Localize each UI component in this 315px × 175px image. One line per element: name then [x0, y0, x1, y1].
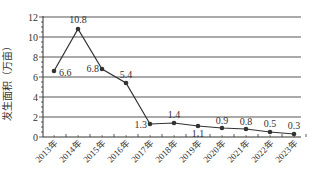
x-tick-label: 2017年: [129, 138, 156, 165]
y-tick-label: 8: [33, 52, 38, 63]
data-point: [244, 127, 249, 132]
x-tick-label: 2016年: [105, 138, 132, 165]
data-label: 0.3: [288, 120, 301, 131]
y-tick-label: 6: [33, 72, 38, 83]
data-label: 6.8: [87, 63, 100, 74]
data-label: 6.6: [59, 67, 72, 78]
data-point: [76, 27, 81, 32]
data-label: 1.4: [168, 109, 181, 120]
y-tick-label: 12: [28, 12, 38, 23]
x-tick-label: 2020年: [201, 138, 228, 165]
data-label: 10.8: [69, 14, 87, 25]
y-tick-label: 4: [33, 92, 38, 103]
data-label: 1.1: [192, 128, 205, 139]
data-point: [124, 81, 129, 86]
y-tick-label: 10: [28, 32, 38, 43]
x-tick-label: 2022年: [249, 138, 276, 165]
data-point: [52, 69, 57, 74]
data-label: 0.5: [264, 118, 277, 129]
data-label: 1.3: [135, 119, 148, 130]
data-point: [292, 132, 297, 137]
data-point: [100, 67, 105, 72]
x-tick-label: 2018年: [153, 138, 180, 165]
y-axis-ticks: 024681012: [28, 12, 43, 143]
data-point: [220, 126, 225, 131]
y-axis-title: 发生面积（万亩）: [1, 41, 13, 121]
line-chart: 024681012 2013年2014年2015年2016年2017年2018年…: [0, 0, 315, 175]
x-tick-label: 2021年: [225, 138, 252, 165]
x-tick-label: 2019年: [177, 138, 204, 165]
x-tick-label: 2015年: [81, 138, 108, 165]
gridlines: [43, 17, 301, 117]
data-label: 0.8: [240, 116, 253, 127]
x-axis-ticks: 2013年2014年2015年2016年2017年2018年2019年2020年…: [33, 134, 306, 165]
data-label: 5.4: [120, 69, 133, 80]
y-tick-label: 0: [33, 132, 38, 143]
data-point: [172, 121, 177, 126]
data-point: [268, 130, 273, 135]
x-tick-label: 2023年: [273, 138, 300, 165]
data-label: 0.9: [216, 115, 229, 126]
x-tick-label: 2014年: [57, 138, 84, 165]
data-point: [148, 122, 153, 127]
y-tick-label: 2: [33, 112, 38, 123]
